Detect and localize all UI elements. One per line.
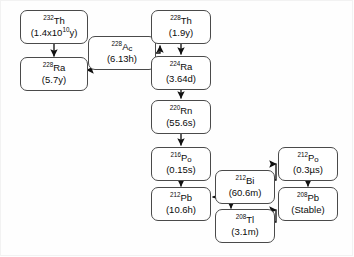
- node-po216-nuclide: 216Po: [170, 152, 191, 164]
- node-th228[interactable]: 228Th (1.9y): [151, 10, 211, 44]
- node-ra228[interactable]: 228Ra (5.7y): [20, 57, 88, 91]
- node-ra224-nuclide: 224Ra: [170, 61, 193, 73]
- node-tl208-halflife: (3.1m): [231, 226, 258, 238]
- node-po216[interactable]: 216Po (0.15s): [151, 147, 211, 181]
- node-pb208-halflife: (Stable): [291, 204, 324, 216]
- node-ra228-nuclide: 228Ra: [43, 62, 66, 74]
- node-po212[interactable]: 212Po (0.3µs): [278, 147, 338, 181]
- node-pb212[interactable]: 212Pb (10.6h): [151, 187, 211, 221]
- node-rn220-halflife: (55.6s): [166, 117, 196, 129]
- node-th232[interactable]: 232Th (1.4x1010y): [20, 10, 88, 44]
- node-ra224-halflife: (3.64d): [166, 73, 196, 85]
- node-tl208[interactable]: 208Tl (3.1m): [215, 209, 275, 243]
- node-pb212-nuclide: 212Pb: [170, 192, 192, 204]
- node-bi212[interactable]: 212Bi (60.6m): [215, 170, 275, 204]
- node-pb208-nuclide: 208Pb: [297, 192, 319, 204]
- node-rn220[interactable]: 220Rn (55.6s): [151, 100, 211, 134]
- node-tl208-nuclide: 208Tl: [236, 214, 254, 226]
- node-ac228-nuclide: 228Ac: [112, 41, 133, 53]
- node-pb208[interactable]: 208Pb (Stable): [278, 187, 338, 221]
- node-ac228[interactable]: 228Ac (6.13h): [88, 36, 156, 70]
- node-bi212-nuclide: 212Bi: [236, 175, 255, 187]
- node-th232-halflife: (1.4x1010y): [31, 27, 78, 39]
- node-ra228-halflife: (5.7y): [42, 74, 66, 86]
- node-po212-nuclide: 212Po: [297, 152, 318, 164]
- node-pb212-halflife: (10.6h): [166, 204, 196, 216]
- arrow-ac228-to-th228: [156, 46, 160, 54]
- arrow-bi212-to-po212: [275, 164, 277, 180]
- node-ra224[interactable]: 224Ra (3.64d): [151, 56, 211, 90]
- arrow-tl208-to-pb208: [275, 210, 277, 222]
- node-po216-halflife: (0.15s): [166, 164, 196, 176]
- node-rn220-nuclide: 220Rn: [170, 105, 193, 117]
- decay-chain-diagram: 232Th (1.4x1010y) 228Ra (5.7y) 228Ac (6.…: [0, 0, 354, 257]
- node-th228-nuclide: 228Th: [170, 15, 192, 27]
- node-po212-halflife: (0.3µs): [293, 164, 323, 176]
- node-bi212-halflife: (60.6m): [229, 187, 262, 199]
- node-th228-halflife: (1.9y): [169, 27, 193, 39]
- node-ac228-halflife: (6.13h): [107, 53, 137, 65]
